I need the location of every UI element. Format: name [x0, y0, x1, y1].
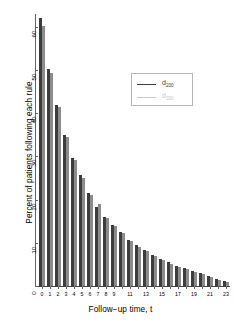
- bar: [130, 241, 133, 286]
- x-tick: [202, 286, 203, 289]
- bar: [210, 277, 213, 286]
- x-tick: [106, 286, 107, 289]
- y-tick-label: 30: [30, 156, 37, 171]
- bar: [162, 260, 165, 286]
- bar: [178, 267, 181, 286]
- x-tick-label: 11: [124, 291, 136, 297]
- bar: [82, 178, 85, 286]
- bar: [42, 26, 45, 286]
- x-tick: [98, 286, 99, 289]
- bar: [154, 256, 157, 286]
- bar: [98, 204, 101, 286]
- x-tick: [162, 286, 163, 289]
- x-tick: [74, 286, 75, 289]
- bar: [202, 274, 205, 286]
- bar: [66, 137, 69, 286]
- bar: [122, 233, 125, 286]
- bar: [50, 73, 53, 286]
- y-tick-label: 60: [30, 26, 37, 41]
- legend-label-d200: d200: [162, 79, 174, 86]
- bar: [146, 251, 149, 286]
- x-tick-label: 21: [204, 291, 216, 297]
- x-tick: [50, 286, 51, 289]
- y-tick-label: 50: [30, 70, 37, 85]
- bar: [106, 218, 109, 286]
- x-tick: [58, 286, 59, 289]
- legend-label-d350: d350: [162, 92, 174, 99]
- x-tick-label: 13: [140, 291, 152, 297]
- bar: [74, 160, 77, 286]
- chart-figure: Percent of patients following each rule …: [0, 0, 241, 327]
- x-tick-label: 17: [172, 291, 184, 297]
- x-tick: [178, 286, 179, 289]
- x-tick-label: 15: [156, 291, 168, 297]
- bar: [114, 226, 117, 286]
- bar: [170, 264, 173, 286]
- x-tick: [186, 286, 187, 289]
- bar-series-layer: [38, 14, 230, 286]
- x-axis-title: Follow−up time, t: [0, 305, 241, 314]
- x-tick-label: 9: [108, 291, 120, 297]
- x-tick: [210, 286, 211, 289]
- bar: [58, 107, 61, 286]
- y-tick-label: 10: [30, 242, 37, 257]
- bar: [194, 272, 197, 286]
- x-tick: [194, 286, 195, 289]
- y-tick-label: 20: [30, 199, 37, 214]
- x-tick: [130, 286, 131, 289]
- x-tick: [146, 286, 147, 289]
- x-tick: [226, 286, 227, 289]
- x-tick: [154, 286, 155, 289]
- bar: [186, 269, 189, 286]
- x-tick: [218, 286, 219, 289]
- y-tick-label: 40: [30, 113, 37, 128]
- x-tick: [114, 286, 115, 289]
- x-tick: [42, 286, 43, 289]
- legend-swatch-d350: [137, 97, 156, 98]
- chart-legend: d200 d350: [131, 73, 193, 106]
- x-tick: [90, 286, 91, 289]
- x-tick-label: 19: [188, 291, 200, 297]
- x-tick: [170, 286, 171, 289]
- x-tick: [122, 286, 123, 289]
- legend-swatch-d200: [137, 84, 156, 85]
- x-tick: [138, 286, 139, 289]
- x-tick-label: 23: [220, 291, 232, 297]
- x-tick: [66, 286, 67, 289]
- bar: [90, 195, 93, 286]
- x-tick: [82, 286, 83, 289]
- bar: [138, 247, 141, 286]
